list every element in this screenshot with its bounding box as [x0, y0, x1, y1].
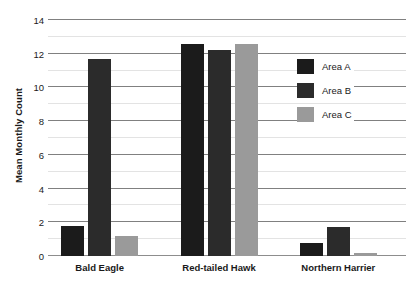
- bar: [300, 243, 323, 256]
- x-category-label: Northern Harrier: [301, 262, 375, 273]
- minor-gridline: [48, 36, 406, 37]
- y-tick-label: 8: [14, 116, 44, 127]
- bar: [327, 227, 350, 257]
- bar: [354, 253, 377, 256]
- legend-label: Area B: [322, 85, 353, 96]
- legend-label: Area C: [322, 109, 354, 120]
- bar-chart: Mean Monthly Count 02468101214 Bald Eagl…: [0, 0, 413, 288]
- bar: [208, 50, 231, 257]
- legend-swatch-icon: [297, 59, 314, 74]
- bar: [235, 44, 258, 256]
- x-category-label: Bald Eagle: [75, 262, 124, 273]
- bar: [115, 236, 138, 256]
- gridline: [48, 19, 406, 20]
- legend-item[interactable]: Area B: [297, 83, 354, 98]
- y-tick-label: 12: [14, 48, 44, 59]
- y-tick-label: 10: [14, 82, 44, 93]
- bar: [181, 44, 204, 256]
- legend: Area AArea BArea C: [297, 59, 354, 122]
- legend-item[interactable]: Area A: [297, 59, 354, 74]
- bar: [88, 59, 111, 256]
- legend-swatch-icon: [297, 107, 314, 122]
- y-tick-label: 0: [14, 251, 44, 262]
- y-tick-label: 14: [14, 15, 44, 26]
- legend-item[interactable]: Area C: [297, 107, 354, 122]
- bar: [61, 226, 84, 256]
- y-tick-label: 6: [14, 149, 44, 160]
- legend-label: Area A: [322, 61, 353, 72]
- plot-area: [48, 20, 406, 256]
- y-tick-label: 4: [14, 183, 44, 194]
- legend-swatch-icon: [297, 83, 314, 98]
- y-tick-label: 2: [14, 217, 44, 228]
- x-category-label: Red-tailed Hawk: [182, 262, 255, 273]
